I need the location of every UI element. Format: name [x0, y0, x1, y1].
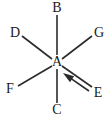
- atom-label-c: C: [50, 103, 64, 117]
- atom-label-e: E: [91, 86, 105, 100]
- bond-a-f: [18, 66, 52, 86]
- atom-label-d: D: [8, 26, 22, 40]
- atom-label-b: B: [50, 1, 64, 15]
- bond-a-g: [62, 36, 92, 59]
- atom-label-g: G: [92, 26, 106, 40]
- attack-arrow-shaft: [70, 78, 89, 91]
- atom-label-f: F: [3, 82, 17, 96]
- attack-arrow-head: [63, 73, 74, 82]
- bond-a-d: [22, 36, 52, 59]
- atom-label-a: A: [50, 55, 64, 69]
- chemical-structure-diagram: ABDGFEC: [0, 0, 111, 118]
